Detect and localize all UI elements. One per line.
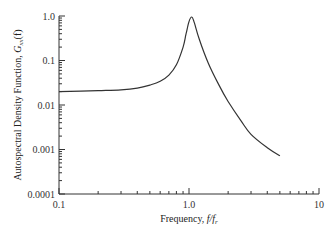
x-tick-labels: 0.11.010 [53, 199, 324, 210]
x-tick-label: 0.1 [53, 199, 66, 210]
y-tick-label: 0.01 [38, 100, 56, 111]
x-tick-label: 1.0 [183, 199, 196, 210]
y-ticks [59, 16, 65, 194]
y-tick-label: 0.0001 [28, 189, 56, 200]
y-axis-title: Autospectral Density Function, Gxx(f) [12, 29, 25, 180]
x-tick-label: 10 [314, 199, 324, 210]
autospectral-density-chart: 1.00.10.010.0010.0001 0.11.010 Frequency… [0, 0, 334, 240]
x-ticks [59, 188, 313, 194]
y-tick-labels: 1.00.10.010.0010.0001 [28, 11, 56, 200]
spectral-density-curve [59, 17, 280, 156]
y-tick-label: 0.001 [33, 144, 56, 155]
y-tick-label: 0.1 [43, 55, 56, 66]
axes [59, 16, 319, 194]
y-tick-label: 1.0 [43, 11, 56, 22]
x-axis-title: Frequency, f/fr [160, 213, 218, 226]
